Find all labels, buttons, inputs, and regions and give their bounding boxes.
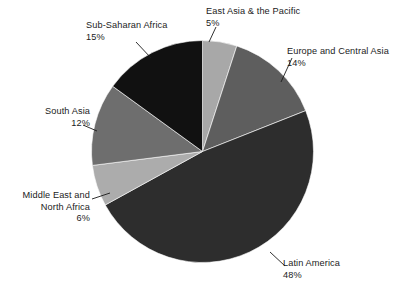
pie-slices-group: [92, 41, 314, 263]
slice-label-south-asia: South Asia 12%: [8, 106, 90, 129]
slice-label-name-line1: Middle East and: [2, 190, 90, 202]
slice-label-latin-america: Latin America 48%: [283, 258, 340, 281]
leader-line-east-asia: [209, 27, 216, 42]
slice-label-value: 6%: [2, 213, 90, 225]
slice-label-name: Europe and Central Asia: [287, 46, 389, 58]
slice-label-value: 48%: [283, 270, 340, 282]
slice-label-sub-saharan-africa: Sub-Saharan Africa 15%: [86, 20, 190, 43]
slice-label-middle-east-and-north-africa: Middle East and North Africa 6%: [2, 190, 90, 225]
slice-label-value: 5%: [206, 18, 300, 30]
slice-label-name: Sub-Saharan Africa: [86, 20, 190, 32]
slice-label-east-asia-and-the-pacific: East Asia & the Pacific 5%: [206, 6, 300, 29]
slice-label-value: 12%: [8, 118, 90, 130]
slice-label-value: 15%: [86, 32, 190, 44]
pie-chart-canvas: [0, 0, 404, 293]
slice-label-name: East Asia & the Pacific: [206, 6, 300, 18]
slice-label-name-line2: North Africa: [2, 202, 90, 214]
slice-label-name: Latin America: [283, 258, 340, 270]
pie-chart-figure: East Asia & the Pacific 5% Europe and Ce…: [0, 0, 404, 293]
leader-line-subsaharan: [136, 42, 151, 58]
slice-label-europe-and-central-asia: Europe and Central Asia 14%: [287, 46, 389, 69]
slice-label-value: 14%: [287, 58, 389, 70]
slice-label-name: South Asia: [8, 106, 90, 118]
